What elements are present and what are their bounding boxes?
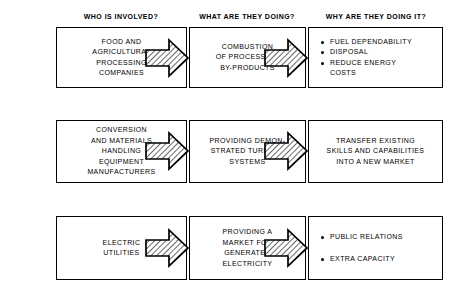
arrow-right-row3-what-to-why xyxy=(264,227,308,269)
arrow-right-row3-who-to-what xyxy=(145,227,189,269)
box-why-row2: TRANSFER EXISTING SKILLS AND CAPABILITIE… xyxy=(308,120,443,183)
column-header-why: WHY ARE THEY DOING IT? xyxy=(308,13,444,20)
box-why-row3: PUBLIC RELATIONS EXTRA CAPACITY xyxy=(308,216,443,280)
arrow-right-row2-who-to-what xyxy=(145,130,189,172)
box-who-row3-text: ELECTRIC UTILITIES xyxy=(99,238,145,259)
column-header-what: WHAT ARE THEY DOING? xyxy=(188,13,306,20)
list-item: REDUCE ENERGY COSTS xyxy=(321,58,412,79)
list-item: DISPOSAL xyxy=(321,47,412,58)
box-why-row2-text: TRANSFER EXISTING SKILLS AND CAPABILITIE… xyxy=(323,136,429,168)
box-why-row3-list: PUBLIC RELATIONS EXTRA CAPACITY xyxy=(309,232,403,264)
box-why-row1: FUEL DEPENDABILITY DISPOSAL REDUCE ENERG… xyxy=(308,27,443,88)
box-why-row1-list: FUEL DEPENDABILITY DISPOSAL REDUCE ENERG… xyxy=(309,37,412,79)
arrow-right-row1-what-to-why xyxy=(264,37,308,79)
arrow-right-row1-who-to-what xyxy=(145,37,189,79)
arrow-right-row2-what-to-why xyxy=(264,130,308,172)
list-item: FUEL DEPENDABILITY xyxy=(321,37,412,48)
column-header-who: WHO IS INVOLVED? xyxy=(56,13,186,20)
list-item: EXTRA CAPACITY xyxy=(321,254,403,265)
list-item: PUBLIC RELATIONS xyxy=(321,232,403,243)
flowchart-diagram: WHO IS INVOLVED? WHAT ARE THEY DOING? WH… xyxy=(0,0,457,294)
